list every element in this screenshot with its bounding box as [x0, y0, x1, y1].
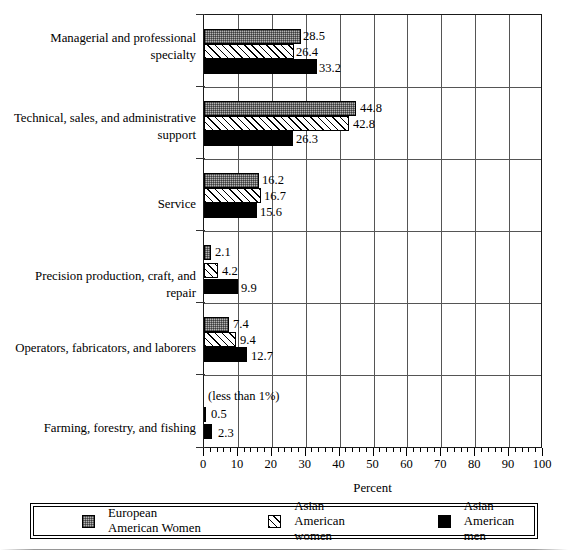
bar-farming-asian-american-men [204, 424, 212, 439]
bar-service-european-american-women [204, 173, 259, 188]
bar-value-operators-european-american-women: 7.4 [233, 317, 249, 332]
bar-service-asian-american-men [204, 203, 257, 218]
bar-technical-asian-american-men [204, 131, 293, 146]
category-label-line1: Managerial and professional [8, 30, 196, 47]
category-label-managerial: Managerial and professional specialty [8, 30, 196, 63]
legend-swatch-solid-icon [438, 515, 451, 528]
bar-managerial-european-american-women [204, 29, 301, 44]
bar-value-service-european-american-women: 16.2 [262, 173, 284, 188]
bar-value-managerial-asian-american-women: 26.4 [296, 45, 318, 60]
horizontal-bar-chart: Managerial and professional specialty Te… [0, 0, 568, 557]
bar-technical-asian-american-women [204, 116, 349, 131]
axis-group-tick [196, 14, 205, 15]
annotation-less-than-one-percent: (less than 1%) [208, 389, 280, 403]
x-tick-label-90: 90 [502, 457, 515, 472]
bar-value-operators-asian-american-women: 9.4 [240, 333, 256, 348]
x-tick-label-100: 100 [533, 457, 552, 472]
bar-value-precision-european-american-women: 2.1 [215, 245, 231, 260]
bar-value-technical-asian-american-women: 42.8 [353, 117, 375, 132]
bar-value-service-asian-american-men: 15.6 [260, 205, 282, 220]
axis-group-tick [196, 374, 205, 375]
x-tick-label-0: 0 [200, 457, 206, 472]
x-tick-label-10: 10 [231, 457, 244, 472]
group-separator [204, 375, 541, 376]
x-tick-label-20: 20 [265, 457, 278, 472]
axis-group-tick [196, 158, 205, 159]
bar-operators-asian-american-men [204, 347, 247, 362]
bar-value-precision-asian-american-women: 4.2 [222, 264, 238, 279]
group-separator [204, 303, 541, 304]
bar-precision-asian-american-men [204, 279, 238, 294]
category-label-technical: Technical, sales, and administrative sup… [8, 110, 196, 143]
bar-operators-asian-american-women [204, 332, 236, 347]
bar-operators-european-american-women [204, 317, 229, 332]
x-axis-title: Percent [203, 481, 542, 496]
category-label-line1: Precision production, craft, and repair [8, 268, 196, 301]
category-label-farming: Farming, forestry, and fishing [8, 420, 196, 437]
group-separator [204, 231, 541, 232]
bar-value-operators-asian-american-men: 12.7 [251, 349, 273, 364]
legend-swatch-stipple-icon [82, 515, 95, 528]
x-tick-label-60: 60 [400, 457, 413, 472]
legend-label-asian-american-men: Asian American men [464, 499, 534, 544]
legend-item-asian-american-men: Asian American men [438, 499, 534, 544]
x-axis: 0 10 20 30 40 50 60 70 80 90 100 [203, 448, 542, 449]
x-tick-label-40: 40 [332, 457, 345, 472]
legend-swatch-hatch-icon [268, 515, 281, 528]
bar-value-farming-asian-american-women: 0.5 [211, 407, 227, 422]
x-tick-label-50: 50 [366, 457, 379, 472]
bar-service-asian-american-women [204, 188, 261, 203]
category-label-line1: Operators, fabricators, and laborers [8, 340, 196, 357]
bar-value-farming-asian-american-men: 2.3 [218, 426, 234, 441]
category-label-line2: support [8, 127, 196, 144]
legend-item-european-american-women: European American Women [82, 506, 204, 536]
bar-value-service-asian-american-women: 16.7 [264, 189, 286, 204]
category-label-line2: specialty [8, 47, 196, 64]
group-separator [204, 159, 541, 160]
bar-managerial-asian-american-men [204, 59, 317, 74]
page-divider-rule [0, 549, 568, 550]
bar-value-technical-european-american-women: 44.8 [360, 101, 382, 116]
category-label-line1: Service [8, 196, 196, 213]
bar-value-precision-asian-american-men: 9.9 [241, 281, 257, 296]
bar-value-managerial-asian-american-men: 33.2 [319, 61, 341, 76]
legend-item-asian-american-women: Asian American women [268, 499, 375, 544]
legend-label-asian-american-women: Asian American women [294, 499, 375, 544]
axis-group-tick [196, 86, 205, 87]
category-label-operators: Operators, fabricators, and laborers [8, 340, 196, 357]
bar-precision-asian-american-women [204, 263, 218, 278]
category-label-service: Service [8, 196, 196, 213]
plot-area: 28.5 26.4 33.2 44.8 42.8 26.3 16.2 16.7 … [203, 14, 542, 448]
chart-legend: European American Women Asian American w… [30, 503, 538, 539]
legend-label-european-american-women: European American Women [108, 506, 204, 536]
x-tick-label-30: 30 [298, 457, 311, 472]
x-tick-label-80: 80 [468, 457, 481, 472]
bar-managerial-asian-american-women [204, 44, 294, 59]
bar-value-managerial-european-american-women: 28.5 [303, 29, 325, 44]
bar-value-technical-asian-american-men: 26.3 [296, 132, 318, 147]
bar-farming-asian-american-women [204, 407, 206, 422]
category-label-precision: Precision production, craft, and repair [8, 268, 196, 301]
category-label-line1: Farming, forestry, and fishing [8, 420, 196, 437]
category-label-line1: Technical, sales, and administrative [8, 110, 196, 127]
group-separator [204, 87, 541, 88]
bar-technical-european-american-women [204, 101, 356, 116]
axis-group-tick [196, 230, 205, 231]
bar-precision-european-american-women [204, 245, 211, 260]
axis-group-tick [196, 302, 205, 303]
x-tick-label-70: 70 [434, 457, 447, 472]
